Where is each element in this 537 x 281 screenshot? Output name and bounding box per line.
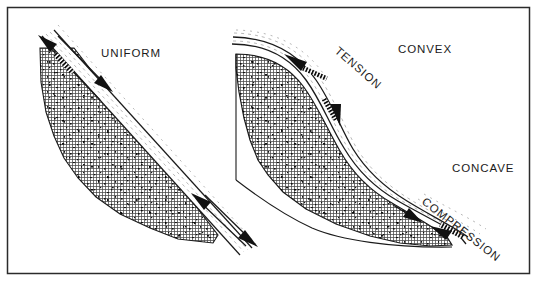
label-uniform: UNIFORM xyxy=(101,47,161,59)
diagram-canvas: UNIFORM xyxy=(0,0,537,281)
label-concave: CONCAVE xyxy=(452,162,514,174)
geology-diagram-figure: UNIFORM xyxy=(0,0,537,281)
label-convex: CONVEX xyxy=(398,43,452,55)
